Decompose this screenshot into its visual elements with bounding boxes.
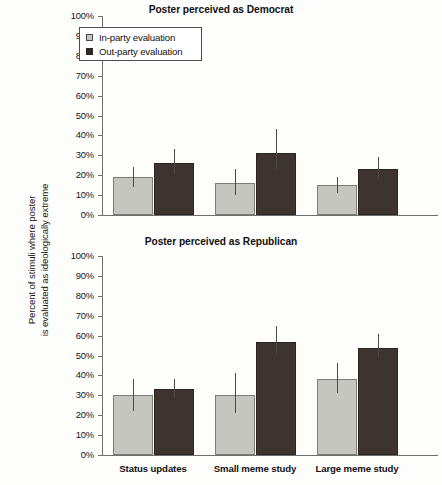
y-axis-tick-label: 100% (40, 10, 94, 21)
y-axis-tick-label: 10% (40, 189, 94, 200)
y-axis-tick (98, 155, 102, 156)
error-bar (337, 363, 338, 393)
y-axis-tick (98, 316, 102, 317)
y-axis-tick (98, 76, 102, 77)
bar-outparty (154, 389, 194, 455)
y-axis-tick-label: 40% (40, 129, 94, 140)
legend-label-outparty: Out-party evaluation (99, 46, 182, 57)
y-axis-tick (98, 175, 102, 176)
error-bar (235, 373, 236, 413)
y-axis-tick (98, 435, 102, 436)
y-axis-tick-label: 20% (40, 169, 94, 180)
y-axis-tick-label: 70% (40, 310, 94, 321)
y-axis-tick (98, 215, 102, 216)
y-axis-tick-label: 30% (40, 389, 94, 400)
y-axis-tick-label: 70% (40, 70, 94, 81)
y-axis-tick-label: 0% (40, 449, 94, 460)
plot-area-republican: 0%10%20%30%40%50%60%70%80%90%100%Status … (0, 232, 442, 485)
y-axis-tick-label: 100% (40, 250, 94, 261)
y-axis-tick (98, 256, 102, 257)
y-axis-tick-label: 60% (40, 90, 94, 101)
y-axis-tick (98, 356, 102, 357)
plot-area-democrat: 0%10%20%30%40%50%60%70%80%90%100% (0, 0, 442, 232)
bar-outparty (256, 342, 296, 455)
y-axis-tick-label: 60% (40, 330, 94, 341)
legend-label-inparty: In-party evaluation (99, 32, 175, 43)
y-axis-line (102, 256, 103, 456)
y-axis-tick (98, 336, 102, 337)
error-bar (174, 149, 175, 173)
y-axis-tick-label: 0% (40, 209, 94, 220)
figure-root: Percent of stimuli where poster is evalu… (0, 0, 442, 485)
error-bar (337, 177, 338, 193)
error-bar (276, 129, 277, 169)
y-axis-tick (98, 375, 102, 376)
y-axis-tick (98, 296, 102, 297)
error-bar (378, 157, 379, 179)
legend-swatch-outparty-icon (86, 48, 93, 55)
y-axis-tick (98, 135, 102, 136)
legend-item-inparty: In-party evaluation (86, 31, 197, 44)
y-axis-tick-label: 50% (40, 350, 94, 361)
bar-outparty (358, 348, 398, 455)
legend-swatch-inparty-icon (86, 34, 93, 41)
panel-democrat: Poster perceived as Democrat 0%10%20%30%… (0, 0, 442, 232)
x-axis-line (102, 455, 438, 456)
y-axis-tick (98, 455, 102, 456)
y-axis-tick-label: 80% (40, 290, 94, 301)
error-bar (235, 169, 236, 195)
error-bar (133, 167, 134, 187)
legend: In-party evaluation Out-party evaluation (79, 27, 202, 61)
y-axis-tick (98, 195, 102, 196)
y-axis-tick-label: 50% (40, 110, 94, 121)
y-axis-tick-label: 20% (40, 409, 94, 420)
y-axis-tick-label: 10% (40, 429, 94, 440)
legend-item-outparty: Out-party evaluation (86, 45, 197, 58)
y-axis-tick (98, 116, 102, 117)
error-bar (174, 379, 175, 397)
error-bar (276, 326, 277, 354)
y-axis-tick (98, 276, 102, 277)
y-axis-tick (98, 16, 102, 17)
error-bar (133, 379, 134, 411)
x-axis-line (102, 215, 438, 216)
y-axis-tick-label: 90% (40, 270, 94, 281)
error-bar (378, 334, 379, 358)
panel-republican: Poster perceived as Republican 0%10%20%3… (0, 232, 442, 485)
x-axis-category-label: Large meme study (297, 463, 417, 474)
y-axis-tick-label: 30% (40, 149, 94, 160)
y-axis-tick (98, 415, 102, 416)
y-axis-tick-label: 40% (40, 369, 94, 380)
y-axis-tick (98, 96, 102, 97)
y-axis-tick (98, 395, 102, 396)
